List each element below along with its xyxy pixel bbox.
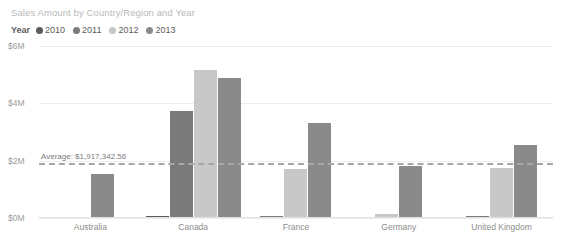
legend-swatch-2013 bbox=[146, 27, 153, 34]
legend-item-2013[interactable]: 2013 bbox=[146, 25, 175, 35]
y-tick-label: $0M bbox=[8, 213, 36, 223]
bar[interactable] bbox=[490, 168, 513, 218]
bar-group bbox=[450, 46, 553, 218]
chart-title: Sales Amount by Country/Region and Year bbox=[11, 7, 195, 18]
legend-label-2011: 2011 bbox=[82, 25, 101, 35]
bar[interactable] bbox=[91, 174, 114, 218]
legend-item-2010[interactable]: 2010 bbox=[36, 25, 65, 35]
average-reference-label: Average: $1,917,342.56 bbox=[41, 152, 126, 161]
y-tick-label: $6M bbox=[8, 41, 36, 51]
x-tick-label: Canada bbox=[142, 222, 245, 232]
x-tick-label: Australia bbox=[39, 222, 142, 232]
y-tick-label: $2M bbox=[8, 156, 36, 166]
legend-label-2012: 2012 bbox=[118, 25, 138, 35]
bar[interactable] bbox=[218, 78, 241, 218]
bar-group bbox=[245, 46, 348, 218]
y-tick-label: $4M bbox=[8, 98, 36, 108]
bar-groups bbox=[39, 46, 553, 218]
legend-swatch-2012 bbox=[109, 27, 116, 34]
legend-item-2012[interactable]: 2012 bbox=[109, 25, 138, 35]
bar-group bbox=[347, 46, 450, 218]
bar[interactable] bbox=[194, 70, 217, 218]
legend-label-2010: 2010 bbox=[45, 25, 65, 35]
bar[interactable] bbox=[399, 166, 422, 218]
legend-item-2011[interactable]: 2011 bbox=[73, 25, 101, 35]
chart-legend: Year 2010 2011 2012 2013 bbox=[11, 25, 178, 35]
bar-group bbox=[39, 46, 142, 218]
x-axis-baseline bbox=[39, 217, 553, 218]
legend-swatch-2010 bbox=[36, 27, 43, 34]
chart-card: Sales Amount by Country/Region and Year … bbox=[0, 0, 561, 245]
legend-label-2013: 2013 bbox=[155, 25, 175, 35]
bar[interactable] bbox=[514, 145, 537, 218]
bar-group bbox=[142, 46, 245, 218]
x-tick-label: Germany bbox=[347, 222, 450, 232]
x-tick-label: United Kingdom bbox=[450, 222, 553, 232]
legend-title: Year bbox=[11, 25, 30, 35]
x-tick-label: France bbox=[245, 222, 348, 232]
legend-swatch-2011 bbox=[73, 27, 80, 34]
x-axis-labels: AustraliaCanadaFranceGermanyUnited Kingd… bbox=[39, 222, 553, 232]
plot-area: Average: $1,917,342.56 bbox=[39, 46, 553, 218]
average-reference-line bbox=[39, 163, 553, 165]
bar[interactable] bbox=[284, 169, 307, 218]
gridline bbox=[39, 218, 553, 219]
bar[interactable] bbox=[308, 123, 331, 218]
